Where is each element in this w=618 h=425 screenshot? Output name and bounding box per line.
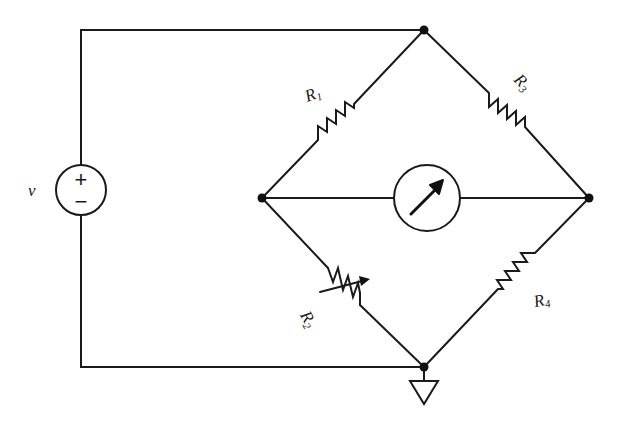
r3-label: R3 [509, 69, 535, 95]
source-minus: − [75, 189, 88, 214]
source-label: v [28, 181, 36, 200]
ground-icon [410, 367, 438, 404]
bridge-circuit-diagram: + − v R1 R3 R2 R4 [0, 0, 618, 425]
meter-arrow-icon [411, 189, 436, 214]
wire-top [81, 30, 424, 165]
r4-label: R4 [531, 289, 552, 312]
node-right [585, 194, 594, 203]
node-left [258, 194, 267, 203]
node-top [420, 26, 429, 35]
wire-bottom [81, 215, 424, 367]
resistor-r1 [262, 30, 424, 198]
r2-label: R2 [295, 307, 321, 332]
node-bottom [420, 363, 429, 372]
galvanometer [262, 165, 589, 231]
voltage-source: + − [56, 165, 106, 215]
r1-label: R1 [301, 83, 324, 108]
resistor-r2-variable [262, 198, 424, 367]
